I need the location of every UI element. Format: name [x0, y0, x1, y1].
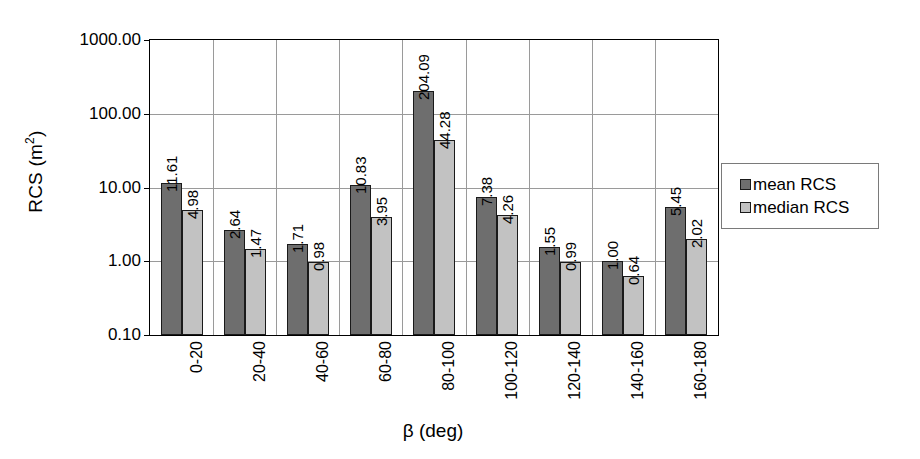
bar-value-label-mean: 2.64 [227, 210, 242, 239]
bar-median-rcs[interactable] [434, 140, 455, 335]
bar-value-label-mean: 204.09 [416, 54, 431, 100]
bar-value-label-median: 4.98 [185, 190, 200, 219]
bar-mean-rcs[interactable] [350, 185, 371, 335]
y-axis-title: RCS (m2) [23, 102, 46, 242]
legend-swatch-median-rcs-icon [740, 202, 751, 213]
y-axis-tick-label: 1000.00 [55, 31, 141, 48]
bar-value-label-median: 3.95 [374, 197, 389, 226]
bar-value-label-mean: 11.61 [164, 155, 179, 191]
x-axis-tick-label: 0-20 [189, 341, 205, 373]
bar-mean-rcs[interactable] [665, 207, 686, 335]
x-axis-tick-labels: 0-2020-4040-6060-8080-100100-120120-1401… [149, 335, 717, 425]
bar-value-label-mean: 5.45 [668, 187, 683, 216]
bar-group: 10.833.95 [339, 40, 402, 335]
legend-swatch-mean-rcs-icon [740, 179, 751, 190]
bar-value-label-median: 0.99 [563, 241, 578, 270]
x-axis-tick-label: 40-60 [315, 341, 331, 382]
legend-item-median-rcs[interactable]: median RCS [722, 196, 878, 219]
bar-value-label-mean: 1.55 [542, 227, 557, 256]
bar-mean-rcs[interactable] [161, 183, 182, 335]
y-axis-title-superscript: 2 [23, 137, 37, 144]
legend-label-mean-rcs: mean RCS [753, 176, 836, 193]
x-axis-tick-label: 160-180 [693, 341, 709, 400]
x-axis-tick-label: 80-100 [441, 341, 457, 391]
bar-group: 1.550.99 [529, 40, 592, 335]
bar-value-label-median: 4.26 [500, 195, 515, 224]
bar-group: 5.452.02 [655, 40, 718, 335]
bar-group: 204.0944.28 [402, 40, 465, 335]
bar-median-rcs[interactable] [686, 239, 707, 335]
bar-value-label-median: 44.28 [437, 111, 452, 149]
bar-mean-rcs[interactable] [287, 244, 308, 335]
bar-mean-rcs[interactable] [476, 197, 497, 335]
x-axis-tick-label: 100-120 [504, 341, 520, 400]
bar-value-label-median: 0.98 [311, 242, 326, 271]
x-axis-title: β (deg) [149, 420, 717, 442]
y-axis-title-base: RCS (m [25, 144, 46, 213]
bar-value-label-mean: 1.71 [290, 224, 305, 253]
bar-value-label-median: 1.47 [248, 229, 263, 258]
bar-median-rcs[interactable] [182, 210, 203, 335]
bar-median-rcs[interactable] [371, 217, 392, 335]
x-axis-tick-label: 140-160 [630, 341, 646, 400]
bar-group: 11.614.98 [150, 40, 213, 335]
plot-area: 11.614.982.641.471.710.9810.833.95204.09… [149, 39, 719, 336]
bar-median-rcs[interactable] [497, 215, 518, 335]
y-axis-tick-labels: 1000.00100.0010.001.000.10 [55, 0, 141, 459]
y-axis-tick-label: 10.00 [55, 178, 141, 195]
bar-group: 1.710.98 [276, 40, 339, 335]
plot-inner: 11.614.982.641.471.710.9810.833.95204.09… [150, 40, 718, 335]
bar-median-rcs[interactable] [308, 262, 329, 335]
bar-value-label-mean: 7.38 [479, 177, 494, 206]
y-axis-tick-label: 100.00 [55, 104, 141, 121]
bar-median-rcs[interactable] [245, 249, 266, 335]
bar-median-rcs[interactable] [560, 262, 581, 335]
bar-group: 2.641.47 [213, 40, 276, 335]
legend-item-mean-rcs[interactable]: mean RCS [722, 173, 878, 196]
bar-value-label-mean: 10.83 [353, 156, 368, 194]
x-axis-tick-label: 120-140 [567, 341, 583, 400]
bar-value-label-median: 0.64 [626, 255, 641, 284]
bar-value-label-mean: 1.00 [605, 241, 620, 270]
bar-mean-rcs[interactable] [413, 91, 434, 335]
x-axis-tick-label: 20-40 [252, 341, 268, 382]
y-axis-tick-label: 1.00 [55, 252, 141, 269]
bar-group: 1.000.64 [592, 40, 655, 335]
bar-mean-rcs[interactable] [602, 261, 623, 335]
bar-mean-rcs[interactable] [224, 230, 245, 335]
y-axis-tick-label: 0.10 [55, 326, 141, 343]
bar-value-label-median: 2.02 [689, 219, 704, 248]
y-axis-title-close: ) [25, 131, 46, 138]
rcs-bar-chart: RCS (m2) 1000.00100.0010.001.000.10 11.6… [0, 0, 920, 459]
chart-legend: mean RCS median RCS [721, 163, 879, 229]
bar-group: 7.384.26 [466, 40, 529, 335]
x-axis-tick-label: 60-80 [378, 341, 394, 382]
legend-label-median-rcs: median RCS [753, 199, 849, 216]
bar-mean-rcs[interactable] [539, 247, 560, 335]
